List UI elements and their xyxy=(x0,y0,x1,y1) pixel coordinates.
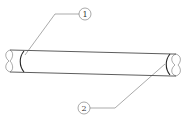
left-break-end xyxy=(6,50,13,72)
right-break-end xyxy=(172,54,181,76)
balloon-2-label: 2 xyxy=(81,104,86,113)
pipe-body xyxy=(6,50,181,76)
pipe-diagram: 1 2 xyxy=(0,0,190,128)
weld-seam-1 xyxy=(20,51,24,72)
callout-2: 2 xyxy=(78,64,165,114)
weld-seam-2 xyxy=(166,54,170,75)
balloon-1-label: 1 xyxy=(82,10,87,19)
callout-1: 1 xyxy=(25,8,91,55)
